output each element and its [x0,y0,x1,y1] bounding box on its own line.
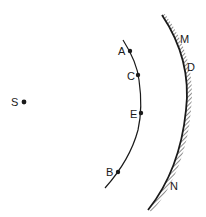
mirror-label-d: D [187,61,195,73]
point-a-dot [128,49,132,53]
point-e-label: E [130,108,137,120]
mirror-label-m: M [180,33,189,45]
wavefront-arc: A C E B [105,40,143,188]
concave-mirror: M D N [148,14,195,212]
source-dot [22,100,27,105]
point-a-label: A [118,45,126,57]
point-b-dot [116,170,120,174]
optics-diagram: S A C E B M D N [0,0,206,217]
mirror-label-n: N [170,180,178,192]
point-c-dot [136,73,140,77]
point-b-label: B [106,166,113,178]
diagram-canvas: S A C E B M D N [0,0,206,217]
source-label: S [11,96,18,108]
source-point: S [11,96,26,108]
point-c-label: C [127,70,135,82]
point-e-dot [139,111,143,115]
